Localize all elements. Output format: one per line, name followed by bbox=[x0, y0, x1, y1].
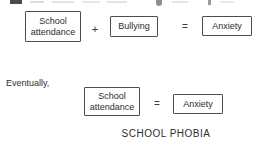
school-attendance-line2: attendance bbox=[31, 27, 76, 38]
bullying-label: Bullying bbox=[118, 21, 150, 32]
plus-operator: + bbox=[88, 22, 102, 36]
school-attendance-line1: School bbox=[39, 16, 67, 27]
equals-operator: = bbox=[150, 96, 164, 110]
cropped-caption-fragment bbox=[10, 0, 22, 4]
anxiety-box: Anxiety bbox=[202, 16, 252, 36]
cropped-caption-fragment bbox=[172, 1, 188, 3]
cropped-caption-fragment bbox=[220, 1, 234, 3]
anxiety-label: Anxiety bbox=[183, 99, 213, 110]
diagram-caption: SCHOOL PHOBIA bbox=[96, 128, 236, 139]
anxiety-box: Anxiety bbox=[173, 94, 223, 114]
cropped-caption-fragment bbox=[208, 0, 211, 5]
cropped-caption-fragment bbox=[107, 1, 127, 3]
school-phobia-diagram: School attendance + Bullying = Anxiety E… bbox=[0, 0, 256, 142]
school-attendance-line2: attendance bbox=[90, 102, 135, 113]
cropped-caption-fragment bbox=[52, 1, 74, 3]
cropped-caption-fragment bbox=[30, 1, 44, 3]
eventually-label: Eventually, bbox=[6, 78, 49, 88]
cropped-caption-fragment bbox=[82, 1, 100, 3]
school-attendance-box: School attendance bbox=[25, 11, 81, 42]
school-attendance-box: School attendance bbox=[84, 87, 140, 116]
school-attendance-line1: School bbox=[98, 91, 126, 102]
equals-operator: = bbox=[178, 19, 192, 33]
cropped-caption-fragment bbox=[156, 0, 162, 6]
anxiety-label: Anxiety bbox=[212, 21, 242, 32]
bullying-box: Bullying bbox=[110, 16, 158, 37]
